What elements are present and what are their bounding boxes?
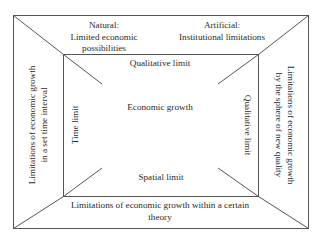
- inner-diagonal-bottom-left: [64, 168, 103, 197]
- inner-left-time-limit: Time limit: [70, 106, 82, 145]
- new-quality-line-1: Limitations of economic growth: [284, 66, 296, 185]
- diagonal-top-right: [259, 16, 309, 55]
- inner-bottom-spatial-limit: Spatial limit: [138, 172, 183, 184]
- inner-right-qualitative-limit: Qualitative limit: [241, 95, 253, 155]
- theory-line-2: theory: [71, 212, 249, 224]
- center-economic-growth: Economic growth: [127, 102, 193, 114]
- theory-line-1: Limitations of economic growth within a …: [71, 200, 249, 212]
- natural-title: Natural:: [70, 20, 137, 32]
- inner-diagonal-bottom-right: [218, 168, 259, 197]
- natural-limits-label: Natural: Limited economic possibilities: [70, 20, 137, 55]
- time-interval-limits-label: Limitations of economic growth in a set …: [27, 66, 50, 185]
- time-interval-line-2: in a set time interval: [38, 66, 50, 185]
- diagonal-top-left: [14, 16, 64, 55]
- time-interval-line-1: Limitations of economic growth: [27, 66, 39, 185]
- diagonal-bottom-left: [14, 197, 64, 229]
- natural-line-3: possibilities: [70, 43, 137, 55]
- diagonal-bottom-right: [259, 197, 309, 229]
- artificial-limits-label: Artificial: Institutional limitations: [179, 20, 265, 43]
- artificial-title: Artificial:: [179, 20, 265, 32]
- inner-top-qualitative-limit: Qualitative limit: [130, 58, 190, 70]
- new-quality-line-2: by the sphere of new quality: [273, 66, 285, 185]
- new-quality-limits-label: Limitations of economic growth by the sp…: [273, 66, 296, 185]
- artificial-line-2: Institutional limitations: [179, 32, 265, 44]
- theory-limits-label: Limitations of economic growth within a …: [71, 200, 249, 223]
- natural-line-2: Limited economic: [70, 32, 137, 44]
- inner-diagonal-top-right: [218, 55, 259, 85]
- inner-diagonal-top-left: [64, 55, 103, 85]
